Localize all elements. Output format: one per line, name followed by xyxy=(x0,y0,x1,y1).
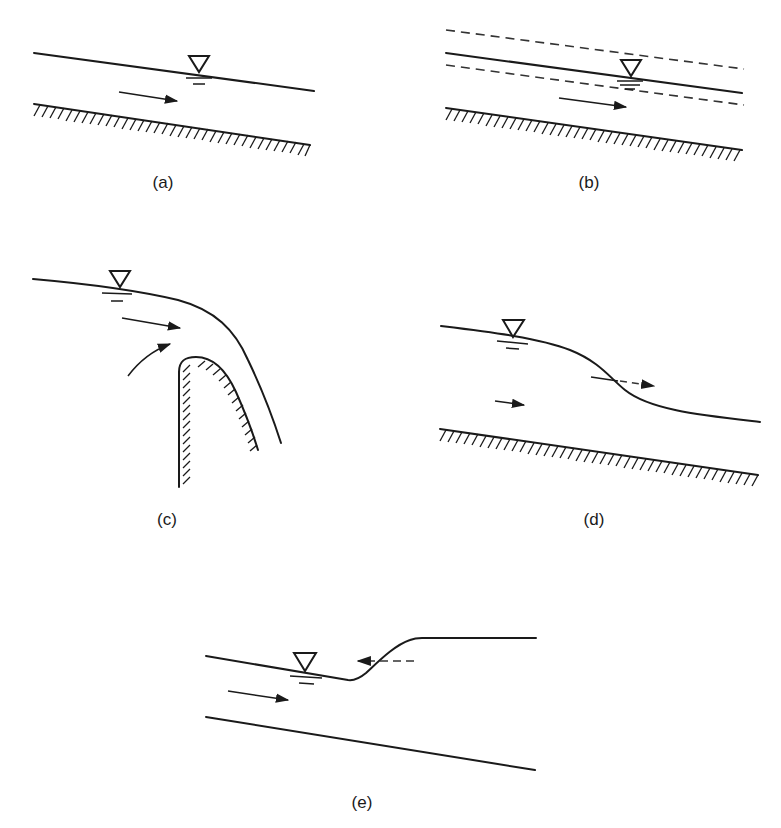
panel-d: (d) xyxy=(440,320,760,529)
channel-bed xyxy=(446,108,742,161)
panel-b: (b) xyxy=(446,30,744,192)
water-surface xyxy=(34,53,314,91)
channel-bed xyxy=(206,717,535,770)
water-surface xyxy=(33,279,281,443)
channel-bed xyxy=(440,429,758,486)
lower-dashed-line xyxy=(446,65,744,105)
water-surface xyxy=(206,638,536,680)
free-surface-icon xyxy=(290,653,322,684)
panel-label: (a) xyxy=(153,173,174,192)
arrow-right-icon xyxy=(119,92,177,101)
arrow-right-icon xyxy=(495,401,524,405)
free-surface-icon xyxy=(617,60,643,89)
weir-crest xyxy=(179,357,258,487)
arrow-right-icon xyxy=(122,318,180,328)
arrow-right-icon xyxy=(559,98,626,107)
arrow-right-icon xyxy=(228,691,288,700)
channel-bed xyxy=(34,104,310,156)
panel-label: (b) xyxy=(579,173,600,192)
panel-label: (c) xyxy=(157,510,177,529)
panel-a: (a) xyxy=(34,53,314,192)
open-channel-flow-figure: (a) xyxy=(0,0,781,828)
panel-c: (c) xyxy=(33,271,281,529)
water-surface xyxy=(441,326,760,422)
dashed-arrow-icon xyxy=(620,381,654,386)
water-surface xyxy=(446,53,742,93)
panel-label: (d) xyxy=(584,510,605,529)
free-surface-icon xyxy=(186,56,212,84)
free-surface-icon xyxy=(102,271,132,301)
curved-arrow-icon xyxy=(128,344,170,376)
panel-e: (e) xyxy=(206,638,536,812)
panel-label: (e) xyxy=(352,793,373,812)
upper-dashed-line xyxy=(446,30,744,69)
